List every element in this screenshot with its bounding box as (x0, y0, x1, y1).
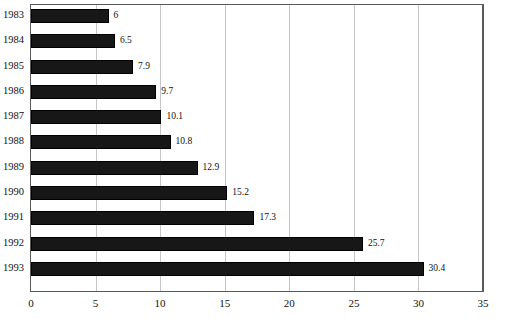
category-label-1985: 1985 (0, 61, 24, 72)
bar-1993 (31, 262, 424, 276)
bar-row: 12.9 (31, 161, 483, 175)
bar-row: 6 (31, 9, 483, 23)
bar-value-label-1993: 30.4 (429, 264, 446, 274)
category-label-1988: 1988 (0, 136, 24, 147)
bar-1991 (31, 211, 254, 225)
bar-1988 (31, 135, 171, 149)
bar-row: 9.7 (31, 85, 483, 99)
x-tick-25: 25 (334, 298, 374, 309)
category-label-1993: 1993 (0, 263, 24, 274)
bar-1983 (31, 9, 109, 23)
bar-value-label-1992: 25.7 (368, 239, 385, 249)
category-label-1989: 1989 (0, 162, 24, 173)
bar-row: 17.3 (31, 211, 483, 225)
bar-row: 15.2 (31, 186, 483, 200)
bar-row: 6.5 (31, 34, 483, 48)
bar-value-label-1983: 6 (114, 11, 119, 21)
bar-value-label-1989: 12.9 (203, 163, 220, 173)
bar-row: 10.1 (31, 110, 483, 124)
category-label-1983: 1983 (0, 10, 24, 21)
category-label-1987: 1987 (0, 111, 24, 122)
bar-value-label-1988: 10.8 (176, 138, 193, 148)
x-tick-15: 15 (205, 298, 245, 309)
x-tick-5: 5 (76, 298, 116, 309)
category-label-1990: 1990 (0, 187, 24, 198)
bar-chart: 66.57.99.710.110.812.915.217.325.730.4 1… (0, 0, 507, 319)
bar-value-label-1990: 15.2 (232, 188, 249, 198)
bar-1990 (31, 186, 227, 200)
bar-row: 10.8 (31, 135, 483, 149)
bar-row: 7.9 (31, 60, 483, 74)
category-label-1986: 1986 (0, 86, 24, 97)
x-tick-35: 35 (463, 298, 503, 309)
bar-1987 (31, 110, 161, 124)
bar-1985 (31, 60, 133, 74)
bar-1986 (31, 85, 156, 99)
bar-value-label-1991: 17.3 (259, 213, 276, 223)
bar-row: 30.4 (31, 262, 483, 276)
plot-area: 66.57.99.710.110.812.915.217.325.730.4 (30, 4, 484, 292)
bar-row: 25.7 (31, 237, 483, 251)
category-label-1992: 1992 (0, 238, 24, 249)
x-tick-0: 0 (11, 298, 51, 309)
x-tick-30: 30 (398, 298, 438, 309)
bar-1984 (31, 34, 115, 48)
x-tick-20: 20 (269, 298, 309, 309)
category-label-1984: 1984 (0, 35, 24, 46)
bar-value-label-1985: 7.9 (138, 62, 150, 72)
bar-value-label-1987: 10.1 (166, 112, 183, 122)
x-tick-10: 10 (140, 298, 180, 309)
bar-1992 (31, 237, 363, 251)
category-label-1991: 1991 (0, 212, 24, 223)
bar-value-label-1984: 6.5 (120, 37, 132, 47)
bar-1989 (31, 161, 198, 175)
bar-value-label-1986: 9.7 (161, 87, 173, 97)
